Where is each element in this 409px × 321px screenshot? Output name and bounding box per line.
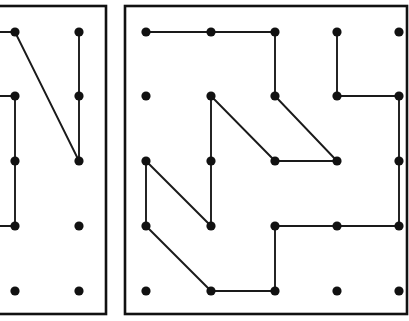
peg-dot[interactable] — [74, 286, 83, 295]
peg-dot[interactable] — [10, 27, 19, 36]
figure-canvas — [0, 0, 409, 321]
peg-dot[interactable] — [206, 221, 215, 230]
peg-dot[interactable] — [394, 221, 403, 230]
peg-dot[interactable] — [74, 156, 83, 165]
peg-dot[interactable] — [206, 91, 215, 100]
peg-dot[interactable] — [394, 27, 403, 36]
peg-dot[interactable] — [141, 221, 150, 230]
peg-dot[interactable] — [270, 91, 279, 100]
peg-dot[interactable] — [141, 156, 150, 165]
peg-dot[interactable] — [141, 286, 150, 295]
peg-dot[interactable] — [332, 156, 341, 165]
peg-dot[interactable] — [270, 221, 279, 230]
peg-dot[interactable] — [394, 91, 403, 100]
peg-dot[interactable] — [270, 156, 279, 165]
geoboard-svg — [0, 0, 409, 321]
peg-dot[interactable] — [74, 221, 83, 230]
peg-dot[interactable] — [332, 27, 341, 36]
peg-dot[interactable] — [10, 221, 19, 230]
peg-dot[interactable] — [394, 156, 403, 165]
peg-dot[interactable] — [206, 286, 215, 295]
peg-dot[interactable] — [141, 91, 150, 100]
peg-dot[interactable] — [270, 286, 279, 295]
peg-dot[interactable] — [206, 27, 215, 36]
peg-dot[interactable] — [10, 286, 19, 295]
peg-dot[interactable] — [74, 91, 83, 100]
peg-dot[interactable] — [141, 27, 150, 36]
peg-dot[interactable] — [206, 156, 215, 165]
background-rect — [0, 0, 409, 321]
peg-dot[interactable] — [270, 27, 279, 36]
peg-dot[interactable] — [74, 27, 83, 36]
peg-dot[interactable] — [10, 156, 19, 165]
peg-dot[interactable] — [10, 91, 19, 100]
peg-dot[interactable] — [332, 91, 341, 100]
peg-dot[interactable] — [332, 221, 341, 230]
peg-dot[interactable] — [332, 286, 341, 295]
peg-dot[interactable] — [394, 286, 403, 295]
